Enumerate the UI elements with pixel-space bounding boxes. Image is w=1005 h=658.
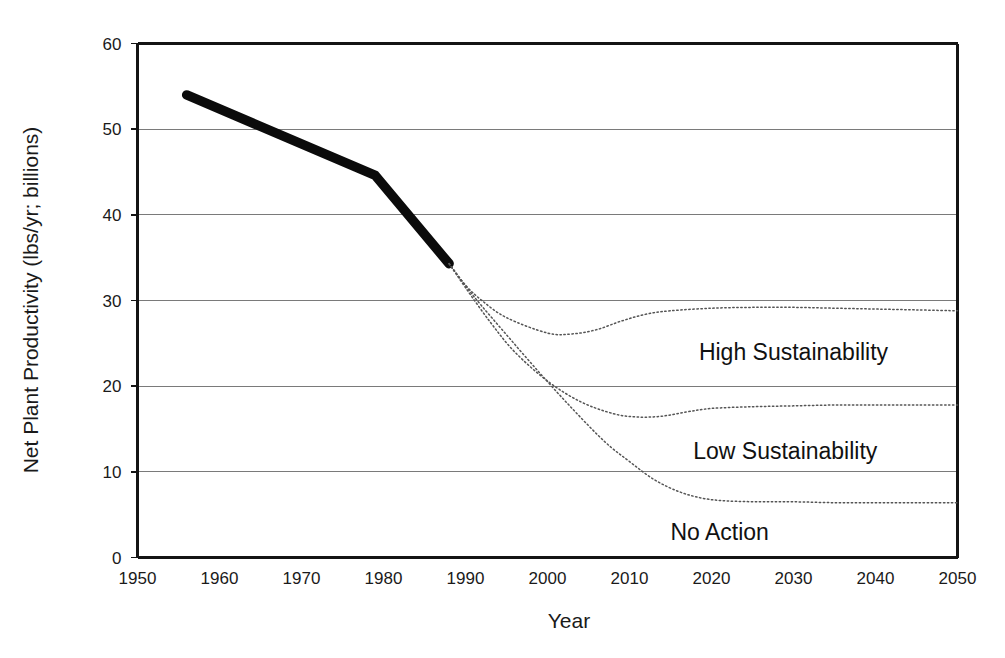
x-tick-label-2000: 2000 [529,569,567,588]
x-tick-label-2030: 2030 [775,569,813,588]
x-tick-label-2050: 2050 [939,569,977,588]
annotation-high-sustainability: High Sustainability [699,339,889,365]
annotation-low-sustainability: Low Sustainability [693,438,878,464]
x-tick-label-1950: 1950 [119,569,157,588]
series-annotations-group: High SustainabilityLow SustainabilityNo … [670,339,888,545]
y-tick-label-60: 60 [103,35,122,54]
x-tick-label-1960: 1960 [201,569,239,588]
series-line-historical [187,95,449,264]
y-tick-label-0: 0 [112,549,121,568]
y-axis-title: Net Plant Productivity (lbs/yr; billions… [19,127,42,474]
x-tick-label-1980: 1980 [365,569,403,588]
line-chart: 0102030405060 19501960197019801990200020… [0,0,1005,658]
annotation-no-action: No Action [670,519,768,545]
y-tick-label-30: 30 [103,292,122,311]
y-tick-label-10: 10 [103,463,122,482]
x-axis-title: Year [548,609,590,632]
y-tick-label-20: 20 [103,377,122,396]
x-tick-labels-group: 1950196019701980199020002010202020302040… [119,569,977,588]
x-tick-label-2020: 2020 [693,569,731,588]
x-tick-label-1990: 1990 [447,569,485,588]
chart-container: 0102030405060 19501960197019801990200020… [0,0,1005,658]
x-tick-label-1970: 1970 [283,569,321,588]
y-tick-labels-group: 0102030405060 [103,35,122,568]
gridlines-group [138,44,958,472]
x-tick-label-2010: 2010 [611,569,649,588]
series-line-no-action [449,264,957,503]
y-tick-label-50: 50 [103,120,122,139]
series-line-high-sustainability [449,264,957,335]
x-tick-label-2040: 2040 [857,569,895,588]
y-tick-label-40: 40 [103,206,122,225]
